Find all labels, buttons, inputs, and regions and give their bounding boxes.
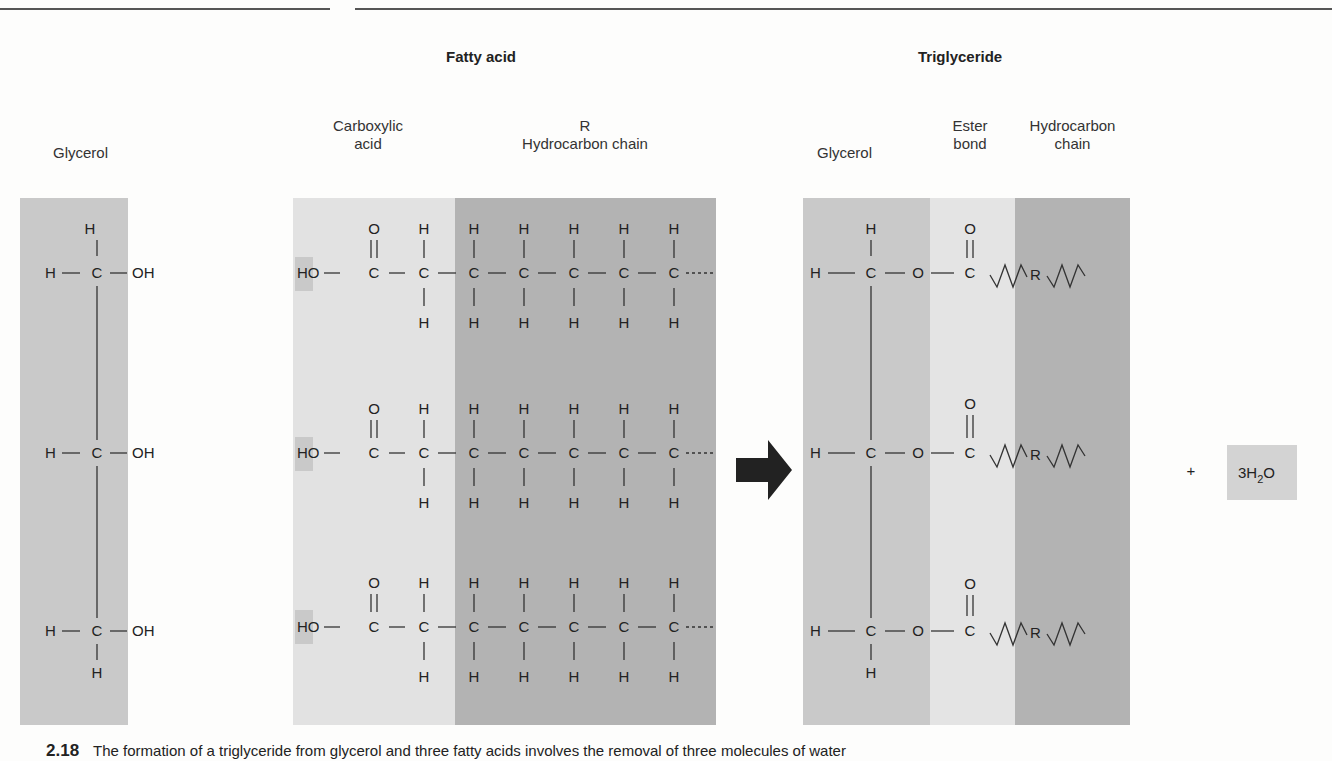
svg-text:C: C: [519, 618, 530, 635]
svg-text:C: C: [569, 264, 580, 281]
svg-text:O: O: [368, 400, 380, 417]
svg-text:H: H: [619, 314, 630, 331]
svg-text:C: C: [469, 618, 480, 635]
svg-text:OH: OH: [132, 444, 155, 461]
svg-text:O: O: [964, 395, 976, 412]
svg-text:C: C: [866, 444, 877, 461]
svg-text:C: C: [965, 622, 976, 639]
svg-text:C: C: [92, 444, 103, 461]
svg-text:H: H: [619, 400, 630, 417]
figure-caption: 2.18The formation of a triglyceride from…: [46, 741, 846, 761]
svg-text:O: O: [964, 220, 976, 237]
svg-text:C: C: [965, 444, 976, 461]
svg-text:O: O: [912, 444, 924, 461]
svg-text:O: O: [368, 220, 380, 237]
svg-text:HO: HO: [297, 618, 320, 635]
svg-text:R: R: [1030, 446, 1041, 463]
svg-text:C: C: [519, 264, 530, 281]
svg-text:O: O: [912, 622, 924, 639]
svg-text:C: C: [619, 618, 630, 635]
svg-text:H: H: [569, 314, 580, 331]
svg-text:H: H: [45, 444, 56, 461]
svg-text:H: H: [669, 400, 680, 417]
svg-text:C: C: [965, 264, 976, 281]
svg-text:OH: OH: [132, 264, 155, 281]
fatty-acid-row-2: HO O C H C H H C H H C H H C H H C H H: [297, 400, 715, 511]
svg-text:H: H: [469, 494, 480, 511]
svg-text:H: H: [85, 220, 96, 237]
svg-text:H: H: [419, 400, 430, 417]
svg-text:C: C: [619, 264, 630, 281]
svg-text:C: C: [866, 264, 877, 281]
svg-text:C: C: [669, 444, 680, 461]
svg-text:H: H: [619, 574, 630, 591]
svg-text:C: C: [419, 444, 430, 461]
svg-text:HO: HO: [297, 444, 320, 461]
svg-text:H: H: [419, 668, 430, 685]
svg-text:C: C: [419, 264, 430, 281]
reaction-arrow-icon: [736, 440, 792, 500]
svg-text:H: H: [669, 220, 680, 237]
svg-text:H: H: [92, 664, 103, 681]
svg-text:C: C: [669, 264, 680, 281]
svg-text:H: H: [419, 220, 430, 237]
svg-text:H: H: [569, 494, 580, 511]
svg-text:H: H: [469, 668, 480, 685]
svg-text:C: C: [669, 618, 680, 635]
svg-text:C: C: [469, 264, 480, 281]
svg-text:H: H: [45, 264, 56, 281]
svg-text:H: H: [569, 400, 580, 417]
plus-sign: +: [1187, 462, 1196, 479]
svg-text:C: C: [369, 618, 380, 635]
svg-text:C: C: [92, 622, 103, 639]
svg-text:H: H: [519, 314, 530, 331]
svg-text:C: C: [569, 444, 580, 461]
fatty-acid-row-3: HO O C H C H H C H H C H H C H H C H H: [297, 574, 715, 685]
svg-text:H: H: [469, 574, 480, 591]
svg-text:C: C: [419, 618, 430, 635]
svg-text:H: H: [619, 494, 630, 511]
triglyceride-molecule: H H C O O C R H C O O C R H C O O C: [810, 220, 1085, 681]
svg-text:C: C: [369, 264, 380, 281]
glycerol-molecule: H H C OH H C OH H C OH H: [45, 220, 155, 681]
svg-text:3H2O: 3H2O: [1238, 464, 1275, 485]
svg-text:O: O: [368, 574, 380, 591]
svg-text:H: H: [469, 220, 480, 237]
svg-text:H: H: [810, 622, 821, 639]
svg-text:H: H: [519, 668, 530, 685]
svg-text:H: H: [669, 668, 680, 685]
svg-text:R: R: [1030, 624, 1041, 641]
svg-text:H: H: [469, 314, 480, 331]
svg-text:H: H: [810, 264, 821, 281]
svg-text:C: C: [469, 444, 480, 461]
svg-text:H: H: [519, 574, 530, 591]
svg-text:OH: OH: [132, 622, 155, 639]
svg-text:H: H: [669, 494, 680, 511]
svg-text:H: H: [569, 220, 580, 237]
svg-text:R: R: [1030, 266, 1041, 283]
svg-text:H: H: [419, 574, 430, 591]
svg-text:H: H: [669, 314, 680, 331]
figure-number: 2.18: [46, 741, 79, 760]
svg-text:H: H: [469, 400, 480, 417]
svg-text:H: H: [619, 668, 630, 685]
svg-text:C: C: [569, 618, 580, 635]
svg-text:HO: HO: [297, 264, 320, 281]
carbon-units: H C H H C H H C H H C H H C: [419, 220, 715, 331]
svg-text:H: H: [569, 574, 580, 591]
svg-text:H: H: [419, 314, 430, 331]
svg-text:C: C: [519, 444, 530, 461]
fatty-acid-row-1: HO O C H C H H C H H C H H C: [297, 220, 715, 331]
svg-text:C: C: [92, 264, 103, 281]
svg-text:O: O: [912, 264, 924, 281]
svg-text:H: H: [669, 574, 680, 591]
svg-text:C: C: [369, 444, 380, 461]
svg-text:H: H: [519, 220, 530, 237]
svg-text:H: H: [810, 444, 821, 461]
caption-text: The formation of a triglyceride from gly…: [93, 742, 846, 759]
svg-text:H: H: [45, 622, 56, 639]
svg-text:O: O: [964, 575, 976, 592]
svg-text:H: H: [419, 494, 430, 511]
svg-text:H: H: [866, 220, 877, 237]
svg-text:H: H: [519, 400, 530, 417]
